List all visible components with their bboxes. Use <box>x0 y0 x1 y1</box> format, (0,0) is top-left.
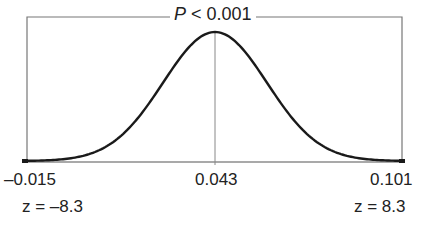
p-value: < 0.001 <box>186 4 252 24</box>
right-tail-marker <box>399 159 405 163</box>
x-tick-left: –0.015 <box>4 170 56 190</box>
chart-canvas <box>0 0 427 228</box>
x-tick-center: 0.043 <box>195 170 238 190</box>
z-label-right: z = 8.3 <box>354 197 406 217</box>
chart-title: P < 0.001 <box>170 4 256 25</box>
x-tick-right: 0.101 <box>370 170 413 190</box>
left-tail-marker <box>22 159 28 163</box>
p-symbol: P <box>174 4 186 24</box>
z-label-left: z = –8.3 <box>22 197 83 217</box>
normal-curve <box>27 32 401 161</box>
